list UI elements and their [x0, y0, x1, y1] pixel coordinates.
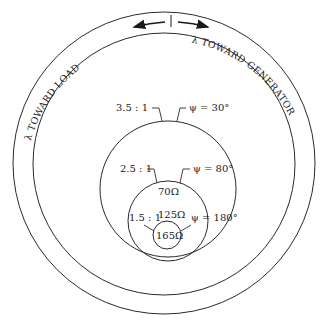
- psi-80-label: ψ = 80°: [193, 163, 233, 174]
- psi-180-label: ψ = 180°: [191, 212, 238, 223]
- psi-80-leader: [180, 169, 190, 183]
- arrow-toward-generator-icon: [178, 22, 208, 27]
- swr-3.5-label: 3.5 : 1: [116, 102, 148, 113]
- outer-ring-outer-circle: [13, 12, 315, 314]
- swr-1.5-leader: [144, 225, 154, 231]
- arrow-toward-load-icon: [134, 22, 165, 27]
- impedance-70-label: 70Ω: [158, 186, 179, 197]
- swr-2.5-label: 2.5 : 1: [120, 163, 152, 174]
- psi-30-label: ψ = 30°: [189, 102, 229, 113]
- impedance-125-label: 125Ω: [158, 209, 185, 220]
- impedance-165-label: 165Ω: [156, 230, 183, 241]
- swr-3.5-leader: [152, 108, 162, 121]
- psi-30-leader: [177, 108, 186, 121]
- swr-1.5-label: 1.5 : 1: [129, 212, 161, 223]
- toward-load-label: λ TOWARD LOAD: [22, 61, 82, 141]
- transmission-line-diagram: λ TOWARD LOAD λ TOWARD GENERATOR 3.5 : 1…: [0, 0, 332, 327]
